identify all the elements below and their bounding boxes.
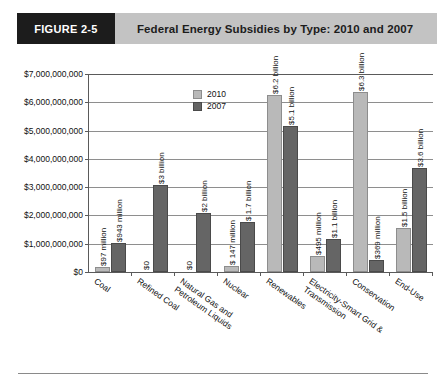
- bar-group: $1.5 billion$3.6 billion: [390, 74, 433, 272]
- x-axis-tick-mark: [389, 272, 390, 276]
- x-axis-labels: CoalRefined CoalNatural Gas andPetroleum…: [88, 272, 432, 357]
- bar-value-label: $0: [184, 261, 193, 270]
- bar-group: $0$3 billion: [132, 74, 175, 272]
- bar-value-label: $943 million: [114, 200, 123, 243]
- bar-value-label: $6.3 billion: [356, 53, 365, 91]
- bar-value-label: $3 billion: [156, 153, 165, 185]
- x-axis-label-line: End-Use: [393, 276, 426, 303]
- x-axis-label-line: Refined Coal: [135, 276, 181, 312]
- bar-group: $495 million$1.1 billion: [304, 74, 347, 272]
- bar-value-label: $495 million: [313, 212, 322, 255]
- y-axis-tick-label: $1,000,000,000: [24, 239, 89, 249]
- x-axis-label-line: Coal: [92, 276, 112, 294]
- x-axis-tick-label: Nuclear: [221, 276, 251, 301]
- y-axis-tick-label: $2,000,000,000: [24, 210, 89, 220]
- chart-container: $7,000,000,000$6,000,000,000$5,000,000,0…: [0, 55, 446, 355]
- bar-2007: $2 billion: [196, 213, 211, 272]
- bar-group: $6.3 billion$369 million: [347, 74, 390, 272]
- legend-swatch-icon-2010: [193, 90, 202, 99]
- chart-legend: 2010 2007: [193, 89, 226, 113]
- bar-2007: $369 million: [369, 260, 384, 272]
- bar-value-label: $3.6 billion: [415, 129, 424, 167]
- bar-2007: $3 billion: [153, 185, 168, 272]
- bar-2007: $5.1 billion: [283, 126, 298, 272]
- bar-2007: $1.1 billion: [326, 239, 341, 272]
- x-axis-tick-mark: [432, 272, 433, 276]
- bar-group: $97 million$943 million: [89, 74, 132, 272]
- legend-item-2010: 2010: [193, 89, 226, 99]
- bar-value-label: $ 1.7 billion: [243, 180, 252, 220]
- x-axis-tick-mark: [131, 272, 132, 276]
- bar-value-label: $ 147 million: [227, 220, 236, 265]
- x-axis-tick-label: Refined Coal: [135, 276, 181, 312]
- legend-label-2007: 2007: [207, 101, 226, 111]
- bar-2010: $6.2 billion: [267, 95, 282, 272]
- bar-group: $6.2 billion$5.1 billion: [261, 74, 304, 272]
- bar-value-label: $1.5 billion: [399, 188, 408, 226]
- x-axis-tick-mark: [174, 272, 175, 276]
- legend-item-2007: 2007: [193, 101, 226, 111]
- bar-2010: $6.3 billion: [353, 92, 368, 272]
- x-axis-tick-mark: [346, 272, 347, 276]
- y-axis-tick-label: $6,000,000,000: [24, 97, 89, 107]
- footer-divider: [18, 373, 428, 374]
- x-axis-label-line: Electricity-Smart Grid &: [307, 276, 385, 335]
- x-axis-tick-mark: [303, 272, 304, 276]
- x-axis-tick-label: Renewables: [264, 276, 308, 311]
- y-axis-tick-label: $4,000,000,000: [24, 154, 89, 164]
- bar-value-label: $1.1 billion: [329, 200, 338, 238]
- figure-number-badge: FIGURE 2-5: [17, 13, 115, 44]
- x-axis-tick-label: End-Use: [393, 276, 426, 303]
- bar-value-label: $5.1 billion: [286, 87, 295, 125]
- y-axis-tick-label: $5,000,000,000: [24, 126, 89, 136]
- page-title: Federal Energy Subsidies by Type: 2010 a…: [115, 23, 413, 35]
- figure-header: FIGURE 2-5 Federal Energy Subsidies by T…: [17, 13, 437, 44]
- bar-value-label: $369 million: [372, 216, 381, 259]
- x-axis-tick-label: Coal: [92, 276, 112, 294]
- plot-area: $7,000,000,000$6,000,000,000$5,000,000,0…: [88, 74, 433, 273]
- bar-2007: $ 1.7 billion: [240, 222, 255, 272]
- x-axis-tick-mark: [217, 272, 218, 276]
- bar-2010: $1.5 billion: [396, 228, 411, 272]
- bar-value-label: $2 billion: [199, 181, 208, 213]
- y-axis-tick-label: $3,000,000,000: [24, 182, 89, 192]
- x-axis-label-line: Renewables: [264, 276, 308, 311]
- x-axis-tick-mark: [260, 272, 261, 276]
- legend-label-2010: 2010: [207, 89, 226, 99]
- figure-title-band: Federal Energy Subsidies by Type: 2010 a…: [115, 13, 437, 44]
- bar-2007: $943 million: [111, 243, 126, 272]
- bar-2010: $495 million: [310, 256, 325, 272]
- bar-2007: $3.6 billion: [412, 168, 427, 272]
- bar-value-label: $97 million: [98, 228, 107, 266]
- bar-value-label: $6.2 billion: [270, 55, 279, 93]
- y-axis-tick-label: $7,000,000,000: [24, 69, 89, 79]
- bar-value-label: $0: [141, 261, 150, 270]
- x-axis-tick-label: Electricity-Smart Grid &Transmission: [301, 276, 385, 343]
- bar-groups: $97 million$943 million$0$3 billion$0$2 …: [89, 74, 433, 272]
- legend-swatch-icon-2007: [193, 102, 202, 111]
- x-axis-label-line: Nuclear: [221, 276, 251, 301]
